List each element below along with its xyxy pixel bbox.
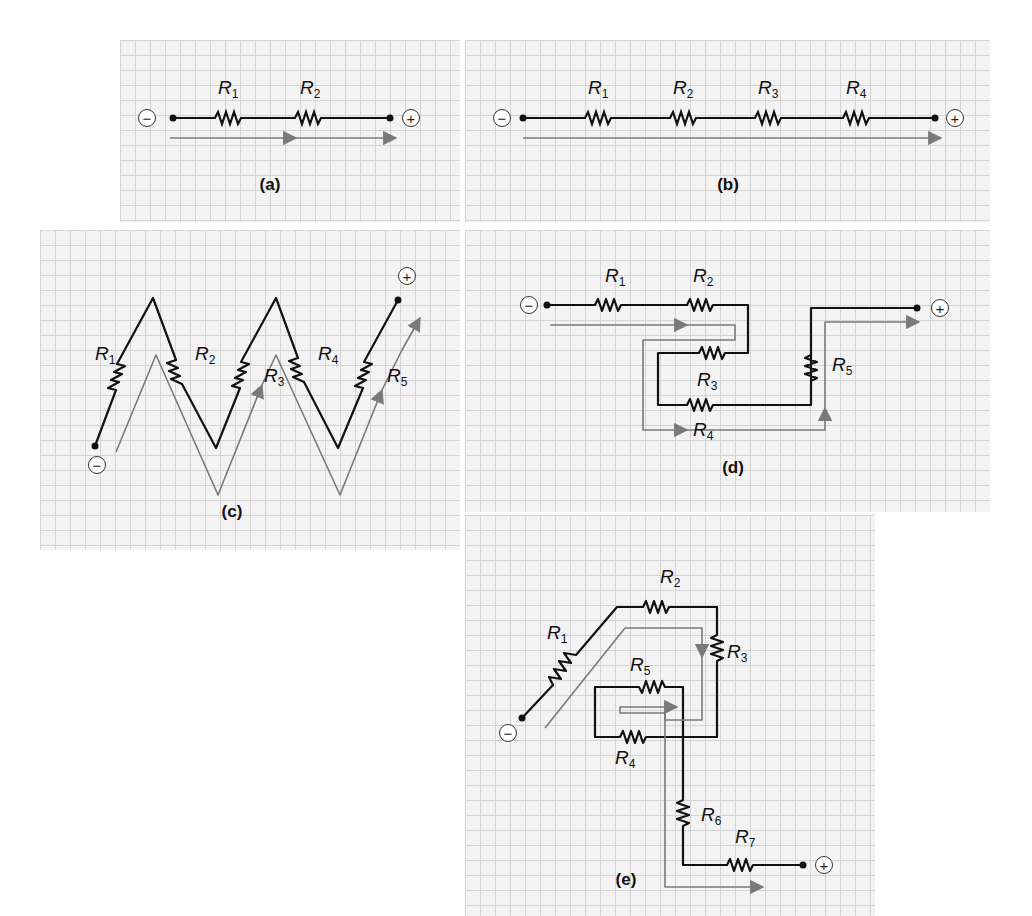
caption-d: (d)	[722, 458, 744, 478]
positive-terminal: +	[398, 267, 416, 285]
circuit-a	[120, 40, 460, 222]
resistor-label-r1: R1	[95, 344, 115, 366]
resistor-label-r5: R5	[630, 655, 650, 677]
negative-terminal: −	[499, 724, 517, 742]
caption-b: (b)	[717, 175, 739, 195]
resistor-label-r1: R1	[605, 266, 625, 288]
resistor-label-r2: R2	[300, 78, 320, 100]
resistor-label-r5: R5	[387, 366, 407, 388]
resistor-label-r2: R2	[673, 78, 693, 100]
caption-c: (c)	[222, 502, 243, 522]
resistor-label-r7: R7	[735, 827, 755, 849]
panel-c: − + R1 R2 R3 R4 R5 (c)	[40, 230, 460, 550]
resistor-label-r6: R6	[701, 805, 721, 827]
resistor-label-r3: R3	[758, 78, 778, 100]
negative-terminal: −	[88, 456, 106, 474]
panel-a: − + R1 R2 (a)	[120, 40, 460, 222]
resistor-label-r1: R1	[218, 78, 238, 100]
resistor-label-r2: R2	[693, 266, 713, 288]
panel-d: − + R1 R2 R3 R4 R5 (d)	[465, 230, 990, 512]
resistor-label-r2: R2	[195, 344, 215, 366]
positive-terminal: +	[946, 109, 964, 127]
resistor-label-r1: R1	[547, 623, 567, 645]
positive-terminal: +	[402, 109, 420, 127]
resistor-label-r3: R3	[264, 366, 284, 388]
resistor-label-r3: R3	[697, 370, 717, 392]
resistor-label-r1: R1	[588, 78, 608, 100]
resistor-label-r4: R4	[318, 344, 338, 366]
caption-e: (e)	[616, 870, 637, 890]
resistor-label-r5: R5	[832, 355, 852, 377]
positive-terminal: +	[815, 856, 833, 874]
negative-terminal: −	[138, 109, 156, 127]
negative-terminal: −	[520, 296, 538, 314]
resistor-label-r2: R2	[660, 567, 680, 589]
negative-terminal: −	[493, 109, 511, 127]
resistor-label-r4: R4	[615, 748, 635, 770]
panel-e: − + R1 R2 R3 R4 R5 R6 R7 (e)	[465, 515, 875, 916]
circuit-c	[40, 230, 460, 550]
resistor-label-r4: R4	[693, 420, 713, 442]
resistor-label-r3: R3	[727, 642, 747, 664]
panel-b: − + R1 R2 R3 R4 (b)	[465, 40, 990, 222]
resistor-label-r4: R4	[846, 78, 866, 100]
positive-terminal: +	[931, 299, 949, 317]
caption-a: (a)	[260, 175, 281, 195]
